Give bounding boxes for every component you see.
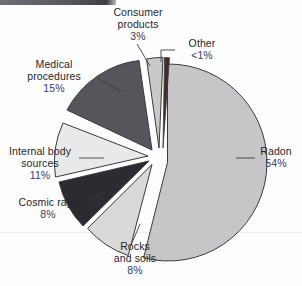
label-internal-body-sources-percent: 11% — [2, 169, 78, 181]
label-consumer-products: Consumer products 3% — [96, 6, 180, 43]
label-internal-body-sources-line2: sources — [2, 157, 78, 169]
label-medical-procedures: Medical procedures 15% — [12, 58, 96, 95]
label-other: Other <1% — [172, 37, 232, 61]
label-rocks-and-soils: Rocks and soils 8% — [98, 240, 172, 277]
label-other-line1: Other — [172, 37, 232, 49]
label-cosmic-rays-percent: 8% — [10, 208, 86, 220]
pie-slice-radon[interactable] — [144, 64, 267, 261]
label-cosmic-rays-line1: Cosmic rays — [10, 196, 86, 208]
label-rocks-and-soils-line2: and soils — [98, 252, 172, 264]
label-radon-percent: 54% — [252, 157, 300, 169]
label-consumer-products-line2: products — [96, 18, 180, 30]
pie-chart-figure: Consumer products 3% Other <1% Medical p… — [0, 0, 302, 286]
label-rocks-and-soils-line1: Rocks — [98, 240, 172, 252]
label-other-percent: <1% — [172, 49, 232, 61]
label-cosmic-rays: Cosmic rays 8% — [10, 196, 86, 220]
label-medical-procedures-percent: 15% — [12, 82, 96, 94]
label-consumer-products-percent: 3% — [96, 30, 180, 42]
label-internal-body-sources: Internal body sources 11% — [2, 145, 78, 182]
label-medical-procedures-line2: procedures — [12, 70, 96, 82]
label-rocks-and-soils-percent: 8% — [98, 264, 172, 276]
label-medical-procedures-line1: Medical — [12, 58, 96, 70]
label-radon: Radon 54% — [252, 145, 300, 169]
label-radon-line1: Radon — [252, 145, 300, 157]
label-internal-body-sources-line1: Internal body — [2, 145, 78, 157]
label-consumer-products-line1: Consumer — [96, 6, 180, 18]
